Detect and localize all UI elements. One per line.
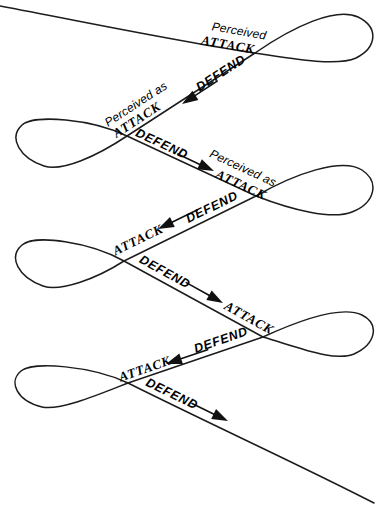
defend-label: DEFEND <box>144 375 201 412</box>
defend-label: DEFEND <box>134 126 191 162</box>
attack-label: ATTACK <box>116 352 173 384</box>
conflict-spiral-diagram: Perceived ATTACK DEFEND Perceived as ATT… <box>0 0 382 510</box>
spiral-curve <box>0 6 374 503</box>
attack-label: ATTACK <box>109 221 165 259</box>
diagram-canvas: Perceived ATTACK DEFEND Perceived as ATT… <box>0 0 382 510</box>
defend-label: DEFEND <box>184 188 241 225</box>
defend-label: DEFEND <box>194 52 249 94</box>
